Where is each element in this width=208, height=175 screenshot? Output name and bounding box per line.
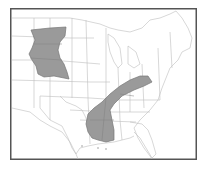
coast-dot <box>81 145 83 147</box>
coast-dot <box>105 148 107 150</box>
coast-dot <box>97 147 99 149</box>
us-map <box>10 8 197 160</box>
